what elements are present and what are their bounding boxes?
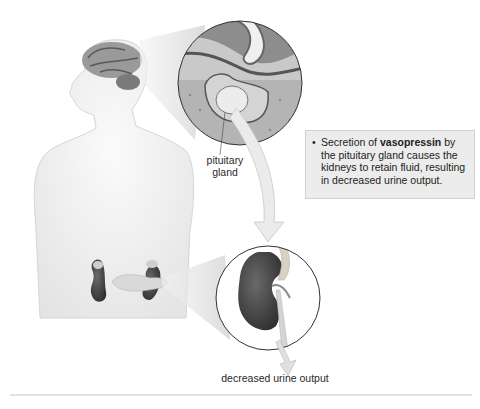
pituitary-label-line2: gland [212,166,238,178]
callout-bold-term: vasopressin [380,136,441,148]
pituitary-label-line1: pituitary [207,154,244,166]
bullet-icon: • [312,136,316,149]
kidney-magnified-view [214,244,324,354]
urine-output-label: decreased urine output [215,372,335,384]
vasopressin-callout: • Secretion of vasopressin by the pituit… [305,130,475,199]
diagram-illustration [0,0,480,409]
callout-text: Secretion of vasopressin by the pituitar… [321,136,468,186]
pituitary-gland-label: pituitary gland [205,154,245,178]
callout-prefix: Secretion of [321,136,380,148]
bottom-divider [10,394,472,396]
